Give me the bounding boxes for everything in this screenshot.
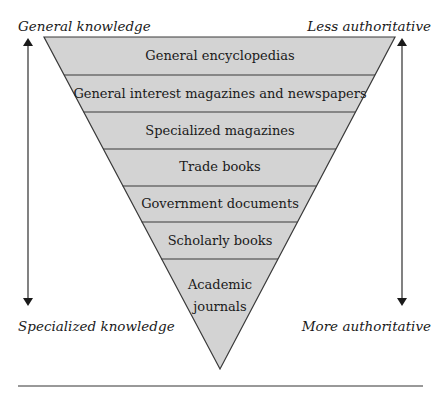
band-label-general-interest-magazines: General interest magazines and newspaper…	[70, 86, 370, 101]
band-label-scholarly-books: Scholarly books	[70, 233, 370, 248]
band-label-academic-journals: Academic journals	[180, 274, 260, 318]
more-authoritative-label: More authoritative	[302, 318, 431, 334]
specialized-knowledge-label: Specialized knowledge	[18, 318, 175, 334]
band-label-specialized-magazines: Specialized magazines	[70, 123, 370, 138]
band-label-trade-books: Trade books	[70, 159, 370, 174]
general-knowledge-label: General knowledge	[18, 18, 151, 34]
band-label-government-documents: Government documents	[70, 196, 370, 211]
less-authoritative-label: Less authoritative	[307, 18, 431, 34]
band-label-general-encyclopedias: General encyclopedias	[70, 48, 370, 63]
